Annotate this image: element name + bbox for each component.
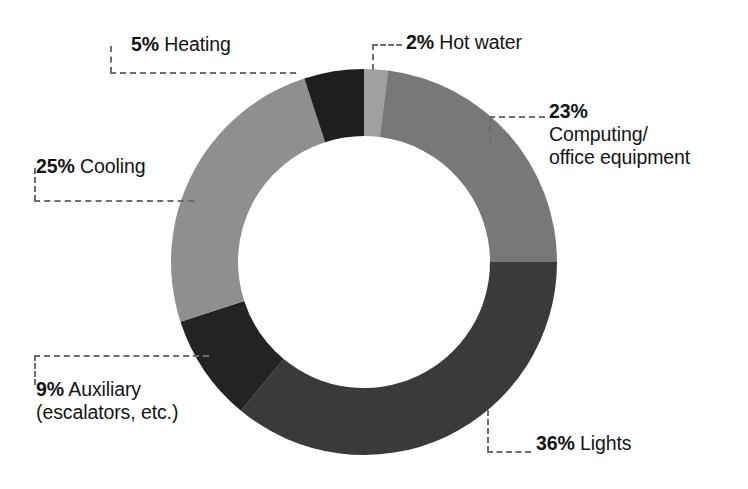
donut-chart: 5% Heating 25% Cooling 9% Auxiliary (esc… [0,0,748,489]
slice-label-computing-line2: Computing/ [549,123,739,146]
slice-label-computing-line3: office equipment [549,146,739,169]
slice-label-lights: 36% Lights [536,432,632,455]
slice-label-computing: 23% Computing/ office equipment [549,100,739,169]
slice-percent-hot-water: 2% [406,31,434,53]
slice-name-lights: Lights [575,432,632,454]
slice-percent-heating: 5% [131,33,159,55]
slice-label-auxiliary-line1: 9% Auxiliary [36,378,251,401]
slice-label-cooling: 25% Cooling [36,155,145,178]
slice-percent-cooling: 25% [36,155,75,177]
slice-name-hot-water: Hot water [434,31,522,53]
slice-label-hot-water: 2% Hot water [406,31,522,54]
slice-name-cooling: Cooling [75,155,146,177]
slice-label-auxiliary-line2: (escalators, etc.) [36,401,251,424]
slice-label-computing-line1: 23% [549,100,739,123]
slice-name-auxiliary: Auxiliary [64,378,141,400]
slice-percent-computing: 23% [549,100,588,122]
donut-slice-lights [241,262,557,455]
slice-label-auxiliary: 9% Auxiliary (escalators, etc.) [36,378,251,424]
slice-label-heating: 5% Heating [131,33,231,56]
donut-slice-cooling [171,78,325,321]
slice-percent-lights: 36% [536,432,575,454]
slice-percent-auxiliary: 9% [36,378,64,400]
donut-slice-computing [380,71,557,262]
slice-name-heating: Heating [159,33,231,55]
